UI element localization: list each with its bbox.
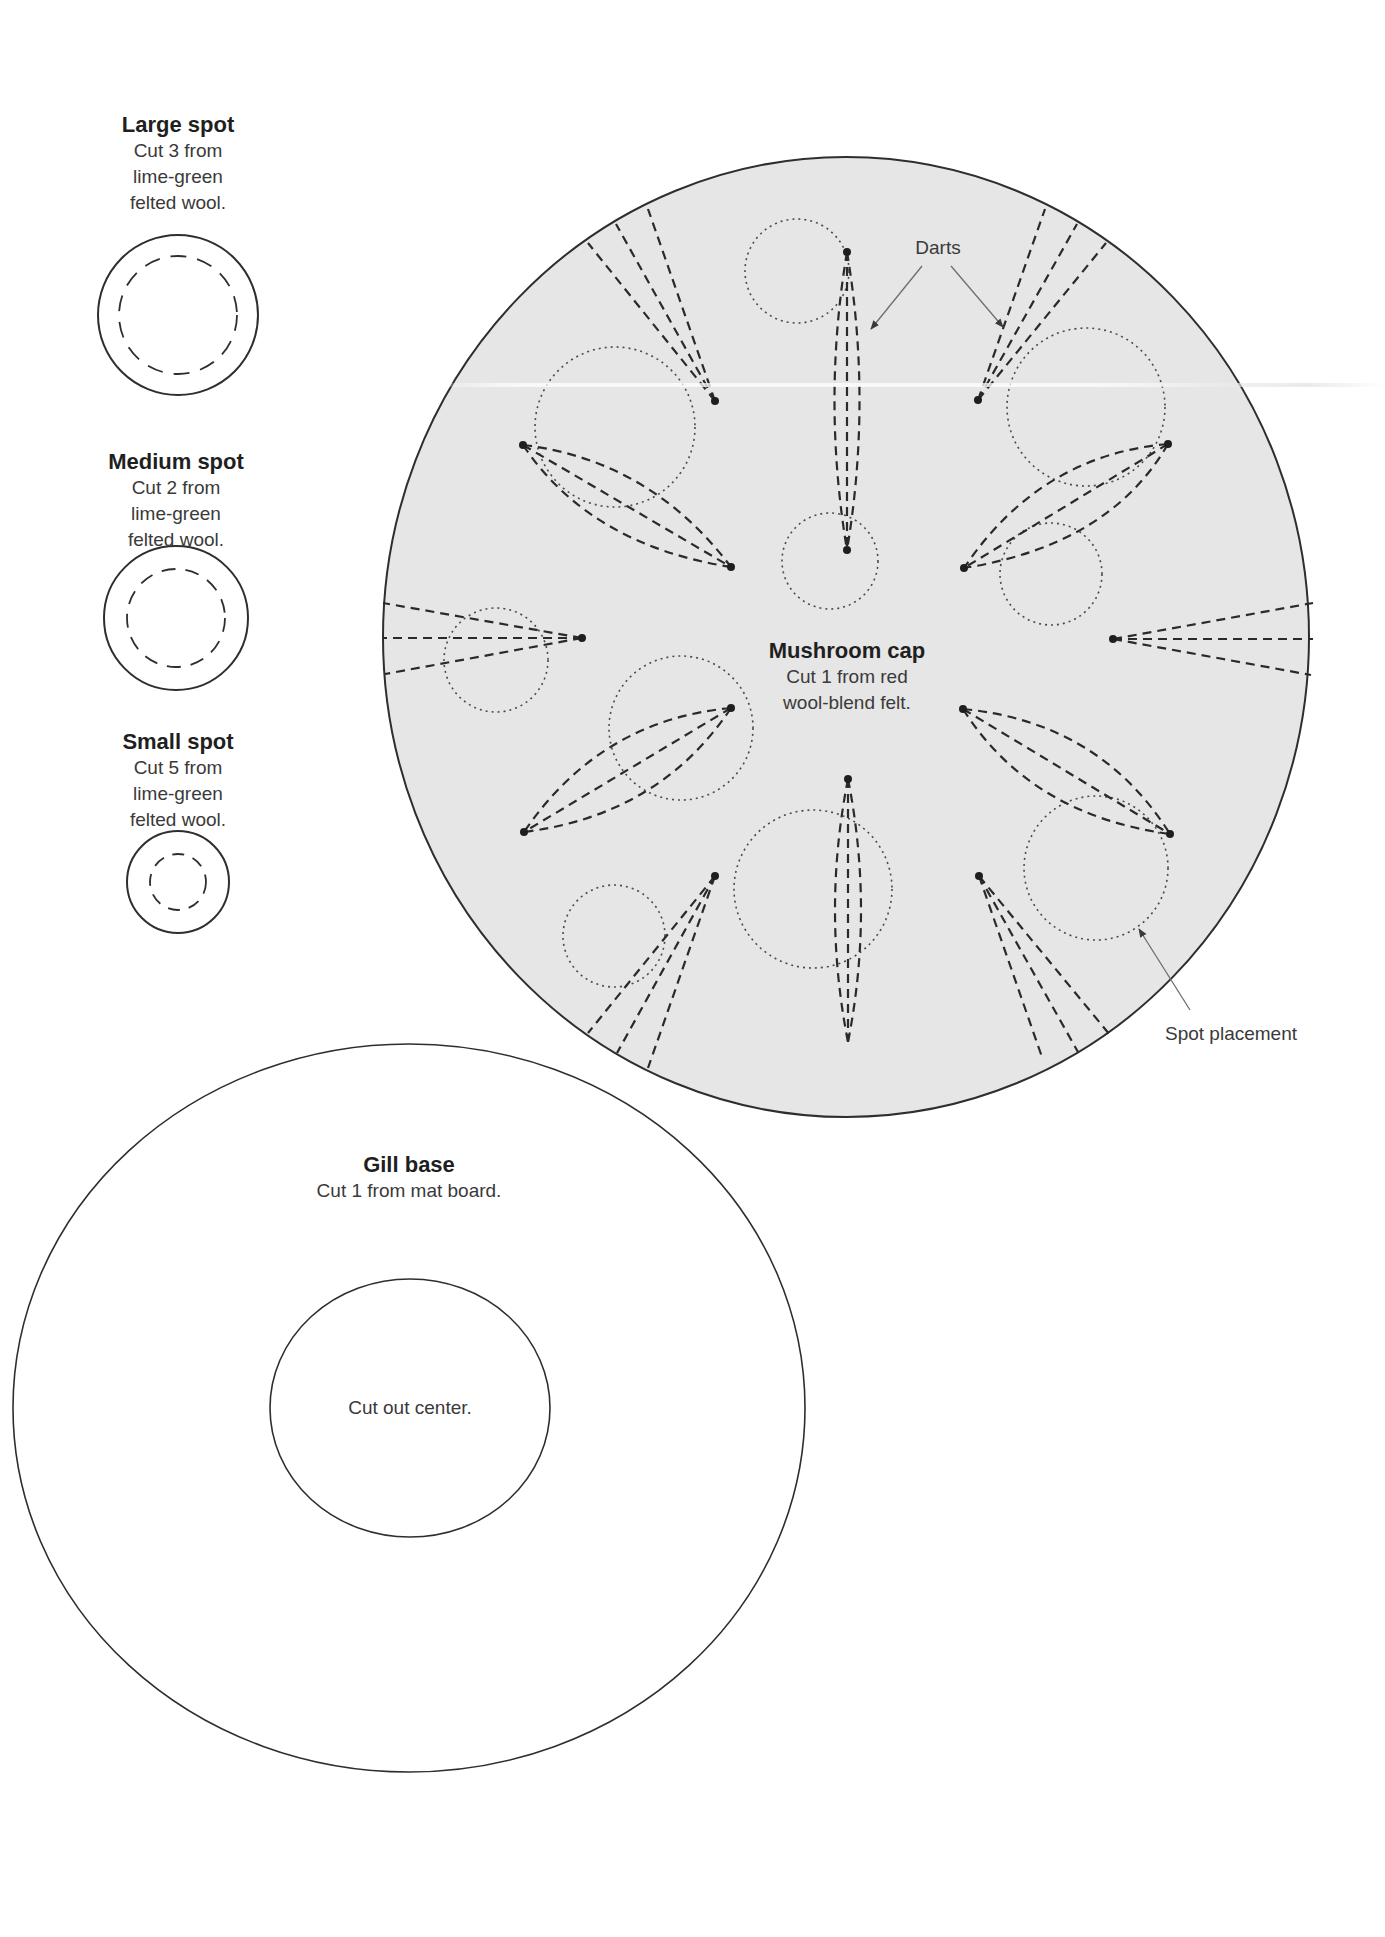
darts-callout: Darts [915, 237, 960, 259]
small-spot-line-1: Cut 5 from [122, 755, 233, 781]
gill-base-center-note: Cut out center. [348, 1397, 472, 1419]
mushroom-cap-line-1: Cut 1 from red [769, 664, 925, 690]
mushroom-cap-piece [383, 157, 1313, 1117]
mushroom-cap-label: Mushroom cap Cut 1 from red wool-blend f… [769, 638, 925, 716]
large-spot-label: Large spot Cut 3 from lime-green felted … [122, 112, 234, 216]
medium-spot-title: Medium spot [108, 449, 244, 475]
small-spot-line-2: lime-green [122, 781, 233, 807]
small-spot-piece [127, 831, 229, 933]
small-spot-label: Small spot Cut 5 from lime-green felted … [122, 729, 233, 833]
pattern-diagram [0, 0, 1385, 1937]
large-spot-line-1: Cut 3 from [122, 138, 234, 164]
large-spot-title: Large spot [122, 112, 234, 138]
medium-spot-piece [104, 546, 248, 690]
medium-spot-line-1: Cut 2 from [108, 475, 244, 501]
spot-placement-callout: Spot placement [1165, 1023, 1297, 1045]
large-spot-line-2: lime-green [122, 164, 234, 190]
medium-spot-line-2: lime-green [108, 501, 244, 527]
medium-spot-line-3: felted wool. [108, 527, 244, 553]
gill-base-line-1: Cut 1 from mat board. [317, 1178, 502, 1204]
gill-base-label: Gill base Cut 1 from mat board. [317, 1152, 502, 1204]
mushroom-cap-title: Mushroom cap [769, 638, 925, 664]
large-spot-piece [98, 235, 258, 395]
small-spot-line-3: felted wool. [122, 807, 233, 833]
large-spot-line-3: felted wool. [122, 190, 234, 216]
mushroom-cap-line-2: wool-blend felt. [769, 690, 925, 716]
gill-base-title: Gill base [317, 1152, 502, 1178]
small-spot-title: Small spot [122, 729, 233, 755]
medium-spot-label: Medium spot Cut 2 from lime-green felted… [108, 449, 244, 553]
